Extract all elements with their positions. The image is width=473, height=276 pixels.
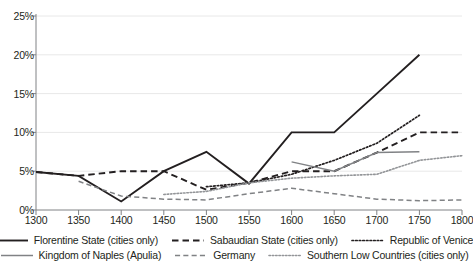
x-axis-label: 1750 <box>408 214 431 226</box>
solid-line-swatch <box>0 236 29 245</box>
legend-item[interactable]: Republic of Venice <box>351 234 473 246</box>
plot-area <box>0 0 468 232</box>
x-axis-label: 1800 <box>451 214 473 226</box>
legend-item[interactable]: Germany <box>174 249 255 261</box>
legend-item[interactable]: Kingdom of Naples (Apulia) <box>0 249 161 261</box>
x-axis-label: 1700 <box>366 214 389 226</box>
x-axis-label: 1350 <box>67 214 90 226</box>
x-axis-label: 1550 <box>238 214 261 226</box>
legend-item[interactable]: Sabaudian State (cities only) <box>171 234 338 246</box>
legend-label: Florentine State (cities only) <box>34 234 158 246</box>
y-axis-label: 10% <box>14 126 34 138</box>
legend-label: Sabaudian State (cities only) <box>210 234 338 246</box>
legend-item[interactable]: Southern Low Countries (cities only) <box>268 249 468 261</box>
solid-line-swatch <box>0 251 34 260</box>
legend-row: Florentine State (cities only)Sabaudian … <box>0 234 473 246</box>
legend-label: Kingdom of Naples (Apulia) <box>39 249 162 261</box>
series-line-1 <box>36 132 462 189</box>
legend-item[interactable]: Florentine State (cities only) <box>0 234 158 246</box>
chart-legend: Florentine State (cities only)Sabaudian … <box>0 230 468 276</box>
x-axis-label: 1300 <box>25 214 48 226</box>
x-axis-label: 1450 <box>153 214 176 226</box>
chart-svg <box>0 0 468 232</box>
series-line-0 <box>36 55 419 202</box>
legend-label: Southern Low Countries (cities only) <box>307 249 468 261</box>
legend-row: Kingdom of Naples (Apulia)GermanySouther… <box>0 249 468 261</box>
legend-label: Republic of Venice <box>390 234 473 246</box>
dotted-line-swatch <box>351 236 385 245</box>
dashed-line-swatch <box>174 251 208 260</box>
x-axis-label: 1400 <box>110 214 133 226</box>
legend-label: Germany <box>213 249 255 261</box>
x-axis-tick-labels: 1300135014001450150015501600165017001750… <box>0 212 468 232</box>
series-line-5 <box>164 156 462 195</box>
y-axis-tick-labels: 0%5%10%15%20%25% <box>0 0 34 232</box>
y-axis-label: 25% <box>14 10 34 22</box>
y-axis-label: 20% <box>14 49 34 61</box>
x-axis-label: 1500 <box>195 214 218 226</box>
y-axis-label: 5% <box>19 165 34 177</box>
y-axis-label: 15% <box>14 88 34 100</box>
dotted-line-swatch <box>268 251 302 260</box>
dashed-line-swatch <box>171 236 205 245</box>
x-axis-label: 1650 <box>323 214 346 226</box>
x-axis-label: 1600 <box>280 214 303 226</box>
